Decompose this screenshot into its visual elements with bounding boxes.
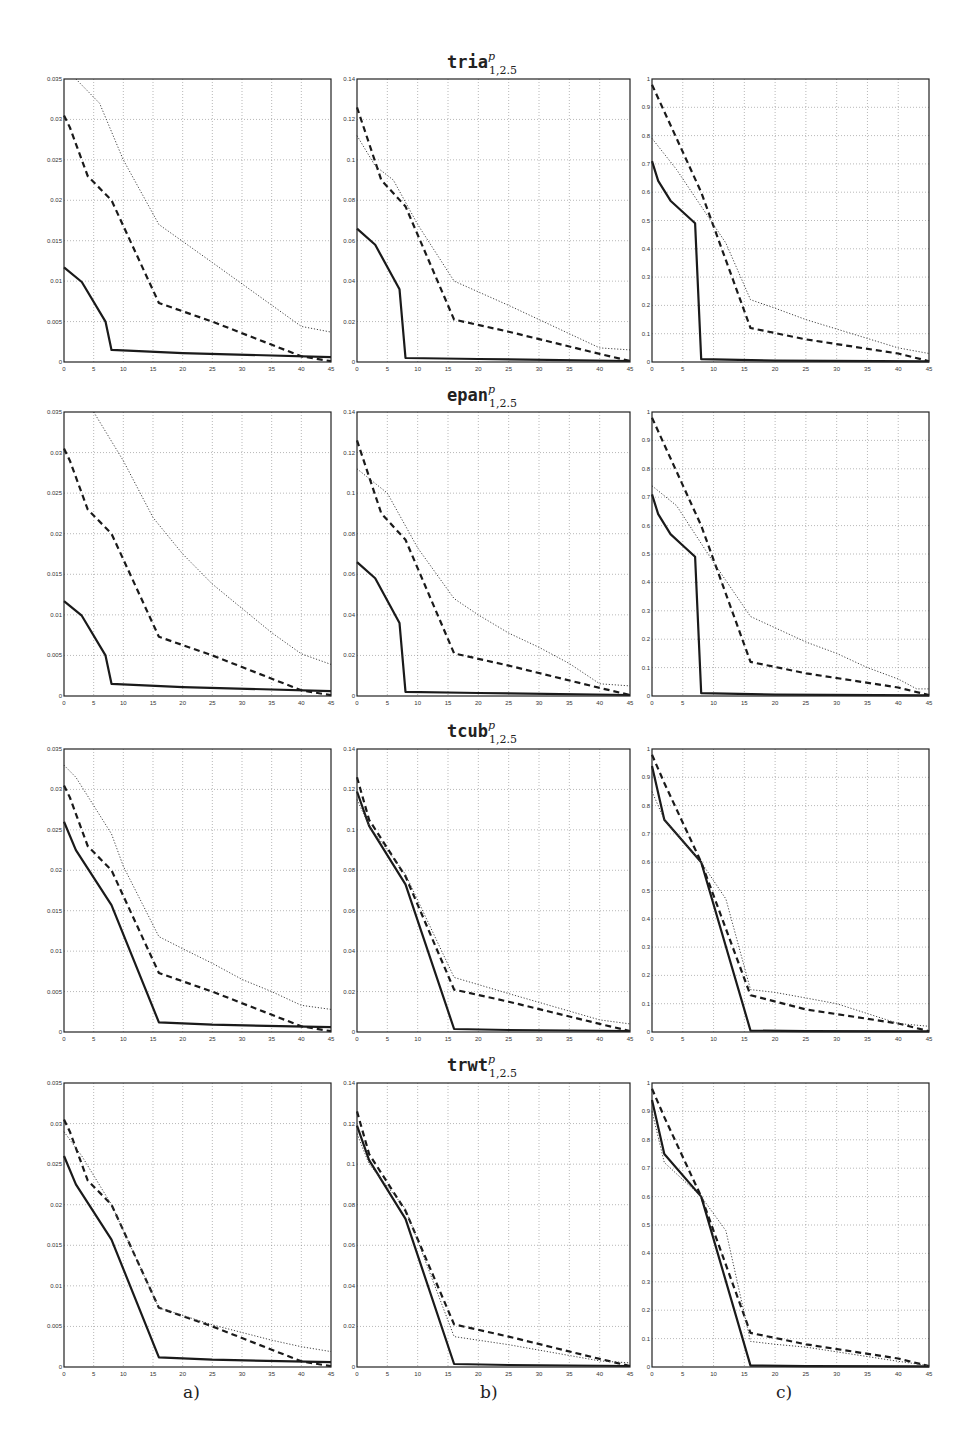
- x-tick-label: 25: [505, 1371, 512, 1377]
- x-tick-label: 15: [445, 700, 452, 706]
- y-tick-label: 0.6: [642, 859, 651, 865]
- x-tick-label: 20: [179, 1371, 186, 1377]
- row-title-tria: triap1,2.5: [447, 52, 517, 72]
- x-tick-label: 40: [298, 1036, 305, 1042]
- x-tick-label: 30: [239, 366, 246, 372]
- row-title-epan: epanp1,2.5: [447, 385, 517, 405]
- series-dotted: [652, 1111, 929, 1365]
- x-tick-label: 0: [62, 1036, 66, 1042]
- x-tick-label: 35: [268, 366, 275, 372]
- y-tick-label: 0.12: [343, 116, 355, 122]
- x-tick-label: 5: [681, 1036, 685, 1042]
- y-tick-label: 0.02: [343, 319, 355, 325]
- chart-panel-trwt-c: 05101520253035404500.10.20.30.40.50.60.7…: [652, 1083, 929, 1367]
- x-tick-label: 5: [92, 700, 96, 706]
- x-tick-label: 20: [475, 366, 482, 372]
- x-tick-label: 30: [536, 366, 543, 372]
- axes-frame: [357, 79, 630, 362]
- x-tick-label: 25: [209, 1036, 216, 1042]
- y-tick-label: 0.9: [642, 774, 651, 780]
- x-tick-label: 30: [833, 1036, 840, 1042]
- y-tick-label: 0: [59, 1364, 63, 1370]
- chart-panel-tcub-b: 05101520253035404500.020.040.060.080.10.…: [357, 749, 630, 1032]
- y-tick-label: 0.02: [50, 1202, 62, 1208]
- x-tick-label: 40: [895, 700, 902, 706]
- y-tick-label: 0.2: [642, 1307, 651, 1313]
- y-tick-label: 0.015: [47, 1242, 63, 1248]
- y-tick-label: 0.1: [347, 1161, 356, 1167]
- y-tick-label: 0: [59, 693, 63, 699]
- y-tick-label: 0.025: [47, 157, 63, 163]
- y-tick-label: 0.01: [50, 612, 62, 618]
- x-tick-label: 5: [92, 1371, 96, 1377]
- series-dashed: [357, 1111, 630, 1366]
- y-tick-label: 1: [647, 409, 651, 415]
- x-tick-label: 5: [386, 1036, 390, 1042]
- x-tick-label: 40: [596, 700, 603, 706]
- axes-frame: [357, 1083, 630, 1367]
- y-tick-label: 0.8: [642, 133, 651, 139]
- row-title-sup: p: [488, 719, 495, 732]
- y-tick-label: 0.8: [642, 1137, 651, 1143]
- x-tick-label: 5: [92, 1036, 96, 1042]
- y-tick-label: 0.3: [642, 608, 651, 614]
- y-tick-label: 0.08: [343, 531, 355, 537]
- series-solid: [357, 792, 630, 1032]
- y-tick-label: 0.14: [343, 409, 355, 415]
- y-tick-label: 0.14: [343, 1080, 355, 1086]
- x-tick-label: 40: [298, 1371, 305, 1377]
- y-tick-label: 0.01: [50, 948, 62, 954]
- x-tick-label: 15: [150, 366, 157, 372]
- x-tick-label: 45: [627, 1036, 634, 1042]
- y-tick-label: 0.04: [343, 612, 355, 618]
- y-tick-label: 0.005: [47, 989, 63, 995]
- series-dashed: [64, 449, 331, 696]
- series-solid: [652, 161, 929, 361]
- series-dashed: [64, 115, 331, 361]
- y-tick-label: 0: [352, 693, 356, 699]
- x-tick-label: 40: [596, 366, 603, 372]
- x-tick-label: 0: [62, 366, 66, 372]
- chart-panel-tria-a: 05101520253035404500.0050.010.0150.020.0…: [64, 79, 331, 362]
- x-tick-label: 0: [650, 1371, 654, 1377]
- x-tick-label: 45: [627, 366, 634, 372]
- y-tick-label: 0.8: [642, 466, 651, 472]
- row-title-sup: p: [488, 1053, 495, 1066]
- series-dashed: [357, 777, 630, 1031]
- y-tick-label: 0.7: [642, 494, 651, 500]
- row-title-sub: 1,2.5: [489, 64, 517, 77]
- y-tick-label: 0.1: [347, 490, 356, 496]
- series-dotted: [357, 1134, 630, 1363]
- y-tick-label: 0.12: [343, 1121, 355, 1127]
- y-tick-label: 0.12: [343, 786, 355, 792]
- y-tick-label: 0.2: [642, 302, 651, 308]
- chart-panel-epan-b: 05101520253035404500.020.040.060.080.10.…: [357, 412, 630, 696]
- chart-panel-epan-a: 05101520253035404500.0050.010.0150.020.0…: [64, 412, 331, 696]
- axes-frame: [64, 749, 331, 1032]
- x-tick-label: 20: [475, 1036, 482, 1042]
- y-tick-label: 0.2: [642, 636, 651, 642]
- x-tick-label: 10: [414, 1036, 421, 1042]
- y-tick-label: 0.035: [47, 409, 63, 415]
- x-tick-label: 0: [650, 1036, 654, 1042]
- y-tick-label: 0.025: [47, 490, 63, 496]
- y-tick-label: 0.015: [47, 238, 63, 244]
- x-tick-label: 40: [298, 700, 305, 706]
- x-tick-label: 35: [268, 1371, 275, 1377]
- y-tick-label: 1: [647, 746, 651, 752]
- y-tick-label: 0.1: [642, 665, 651, 671]
- series-solid: [64, 267, 331, 357]
- x-tick-label: 40: [298, 366, 305, 372]
- x-tick-label: 15: [741, 1036, 748, 1042]
- y-tick-label: 0.4: [642, 1250, 651, 1256]
- x-tick-label: 5: [681, 700, 685, 706]
- x-tick-label: 0: [355, 1036, 359, 1042]
- y-tick-label: 0.015: [47, 908, 63, 914]
- y-tick-label: 0: [647, 693, 651, 699]
- x-tick-label: 15: [741, 700, 748, 706]
- row-title-base: epan: [447, 385, 488, 405]
- y-tick-label: 0.3: [642, 1279, 651, 1285]
- x-tick-label: 10: [120, 700, 127, 706]
- y-tick-label: 0.035: [47, 746, 63, 752]
- x-tick-label: 45: [328, 700, 335, 706]
